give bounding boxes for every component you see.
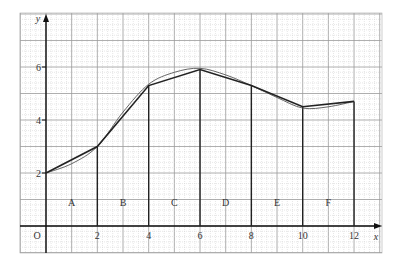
graph-paper-grid (20, 13, 382, 253)
region-label-b: B (120, 197, 127, 208)
axes (20, 14, 382, 253)
region-label-d: D (222, 197, 229, 208)
region-label-c: C (171, 197, 178, 208)
region-label-f: F (326, 197, 332, 208)
x-axis-label: x (373, 231, 379, 242)
x-tick-label: 12 (349, 230, 359, 241)
x-tick-label: 2 (95, 230, 100, 241)
region-label-a: A (68, 197, 76, 208)
region-label-e: E (274, 197, 280, 208)
y-tick-label: 6 (36, 62, 41, 73)
x-tick-label: 10 (298, 230, 308, 241)
x-tick-label: 8 (249, 230, 254, 241)
y-tick-label: 4 (36, 115, 41, 126)
x-tick-label: 6 (198, 230, 203, 241)
y-axis-label: y (35, 13, 41, 24)
x-tick-label: 4 (146, 230, 151, 241)
y-tick-label: 2 (36, 168, 41, 179)
origin-label: O (33, 230, 40, 241)
trapezium-rule-graph: 24681012246Oxy ABCDEF (0, 0, 400, 265)
